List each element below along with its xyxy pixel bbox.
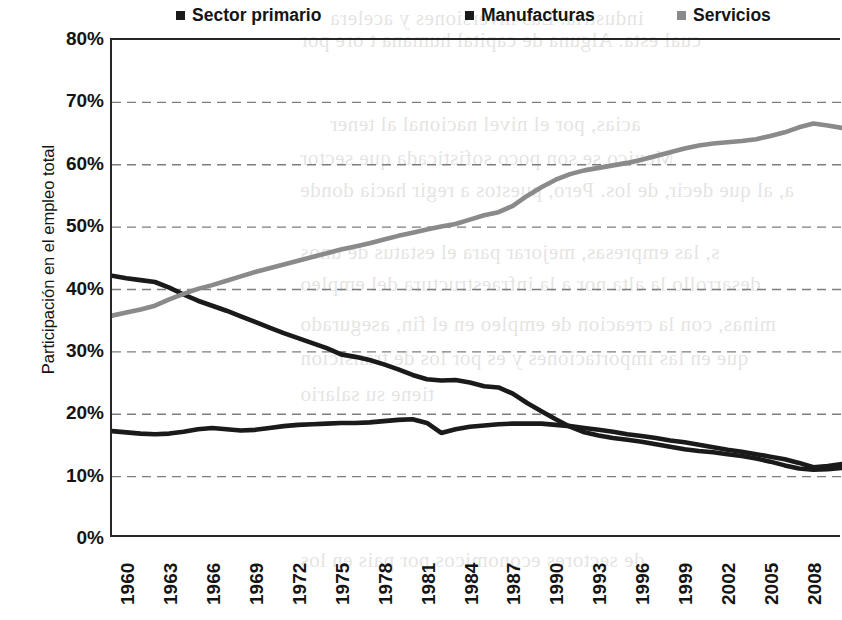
- plot-svg: [112, 40, 842, 539]
- y-tick-20: 20%: [14, 403, 104, 422]
- chart-legend: Sector primario Manufacturas Servicios: [0, 4, 830, 30]
- series-line-sector-primario: [112, 276, 842, 470]
- y-tick-30: 30%: [14, 341, 104, 360]
- legend-swatch-sector-primario: [176, 11, 185, 20]
- x-tick-2005: 2005: [762, 563, 781, 605]
- x-tick-1999: 1999: [676, 563, 695, 605]
- x-tick-1984: 1984: [462, 563, 481, 605]
- y-tick-70: 70%: [14, 91, 104, 110]
- legend-item-servicios: Servicios: [677, 7, 771, 25]
- legend-label-sector-primario: Sector primario: [192, 7, 321, 25]
- x-tick-1981: 1981: [419, 563, 438, 605]
- x-tick-2002: 2002: [719, 563, 738, 605]
- y-tick-80: 80%: [14, 29, 104, 48]
- y-tick-0: 0%: [14, 528, 104, 547]
- legend-swatch-manufacturas: [465, 11, 474, 20]
- legend-item-sector-primario: Sector primario: [176, 7, 321, 25]
- x-tick-1969: 1969: [247, 563, 266, 605]
- x-tick-1975: 1975: [333, 563, 352, 605]
- x-tick-1996: 1996: [633, 563, 652, 605]
- plot-area: [110, 38, 840, 537]
- x-tick-1993: 1993: [590, 563, 609, 605]
- y-tick-10: 10%: [14, 466, 104, 485]
- legend-label-manufacturas: Manufacturas: [481, 7, 595, 25]
- legend-swatch-servicios: [677, 11, 686, 20]
- y-tick-50: 50%: [14, 216, 104, 235]
- series-line-servicios: [112, 124, 842, 316]
- y-axis-tick-labels: 80%70%60%50%40%30%20%10%0%: [8, 0, 104, 620]
- y-tick-40: 40%: [14, 279, 104, 298]
- x-tick-1987: 1987: [504, 563, 523, 605]
- x-tick-1960: 1960: [118, 563, 137, 605]
- x-tick-1963: 1963: [161, 563, 180, 605]
- series-line-manufacturas: [112, 419, 842, 467]
- x-axis-tick-labels: 1960196319661969197219751978198119841987…: [110, 537, 840, 620]
- x-tick-1966: 1966: [204, 563, 223, 605]
- legend-item-manufacturas: Manufacturas: [465, 7, 595, 25]
- x-tick-2008: 2008: [805, 563, 824, 605]
- x-tick-1978: 1978: [376, 563, 395, 605]
- legend-label-servicios: Servicios: [693, 7, 771, 25]
- y-tick-60: 60%: [14, 154, 104, 173]
- x-tick-1972: 1972: [290, 563, 309, 605]
- x-tick-1990: 1990: [547, 563, 566, 605]
